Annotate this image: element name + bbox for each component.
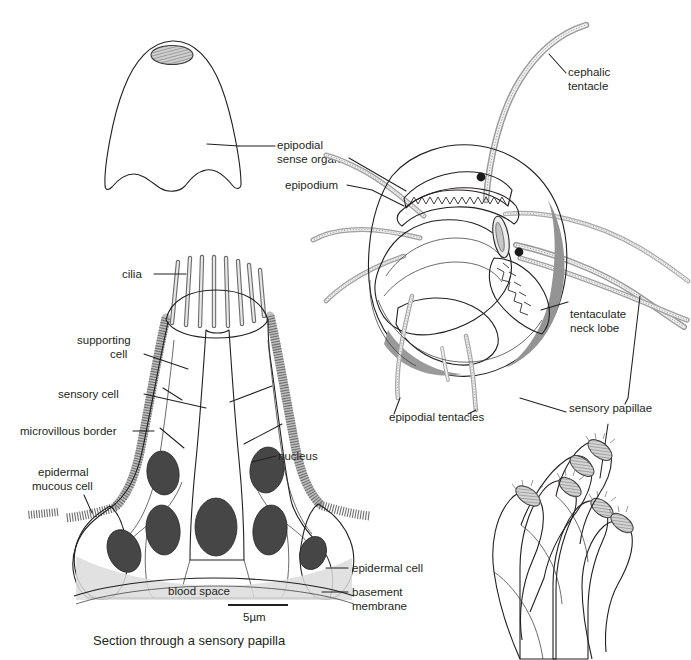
label-epipodial-tentacles: epipodial tentacles bbox=[389, 411, 485, 423]
label-cephalic-tentacle-line2: tentacle bbox=[568, 80, 608, 92]
label-epipodial-sense-organ-line1: epipodial bbox=[277, 139, 323, 151]
label-microvillous-border: microvillous border bbox=[20, 425, 117, 437]
nucleus bbox=[195, 498, 237, 556]
label-basement-membrane-line2: membrane bbox=[352, 600, 407, 612]
sensory-papilla-figure: epipodial sense organ epipodium cephalic… bbox=[0, 0, 691, 660]
label-tentaculate-neck-lobe-line2: neck lobe bbox=[570, 322, 619, 334]
label-sensory-cell: sensory cell bbox=[58, 388, 119, 400]
label-supporting-cell-line1: supporting bbox=[77, 334, 131, 346]
label-cilia: cilia bbox=[122, 268, 142, 280]
label-supporting-cell-line2: cell bbox=[110, 348, 127, 360]
label-sensory-papillae: sensory papillae bbox=[569, 402, 652, 414]
label-epipodium: epipodium bbox=[285, 179, 338, 191]
eye-upper bbox=[477, 173, 486, 182]
eye-lower bbox=[515, 248, 524, 257]
papilla-apex-sense-organ bbox=[151, 46, 193, 65]
label-tentaculate-neck-lobe-line1: tentaculate bbox=[570, 308, 626, 320]
label-epidermal-mucous-cell-line2: mucous cell bbox=[32, 480, 93, 492]
label-cephalic-tentacle-line1: cephalic bbox=[568, 66, 610, 78]
figure-caption: Section through a sensory papilla bbox=[93, 633, 286, 648]
label-epidermal-mucous-cell-line1: epidermal bbox=[38, 466, 89, 478]
label-epidermal-cell: epidermal cell bbox=[352, 562, 423, 574]
label-nucleus: nucleus bbox=[278, 450, 318, 462]
figure-canvas: epipodial sense organ epipodium cephalic… bbox=[0, 0, 691, 660]
label-scale-bar: 5µm bbox=[243, 611, 266, 623]
label-blood-space: blood space bbox=[168, 585, 230, 597]
label-basement-membrane-line1: basement bbox=[352, 586, 403, 598]
